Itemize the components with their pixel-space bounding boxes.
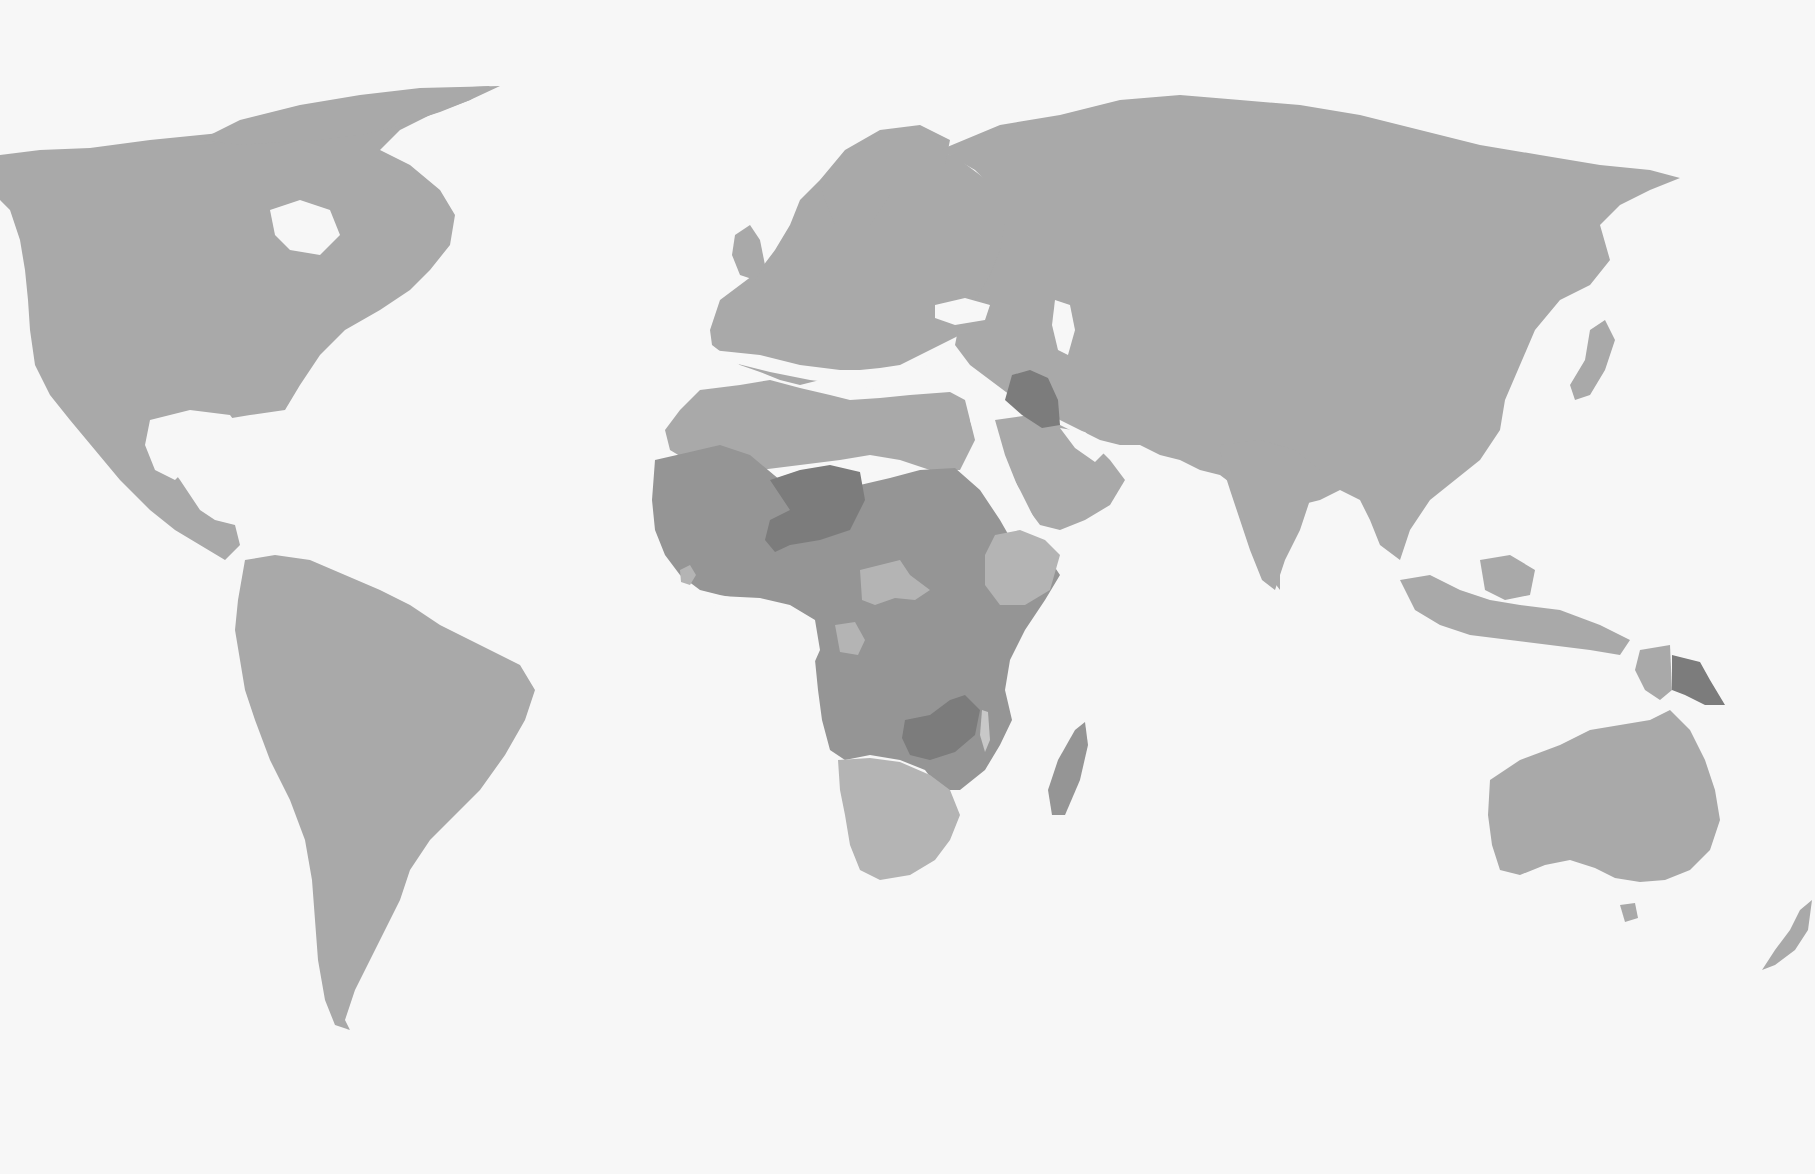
world-choropleth-map <box>0 0 1815 1174</box>
map-svg <box>0 0 1815 1174</box>
